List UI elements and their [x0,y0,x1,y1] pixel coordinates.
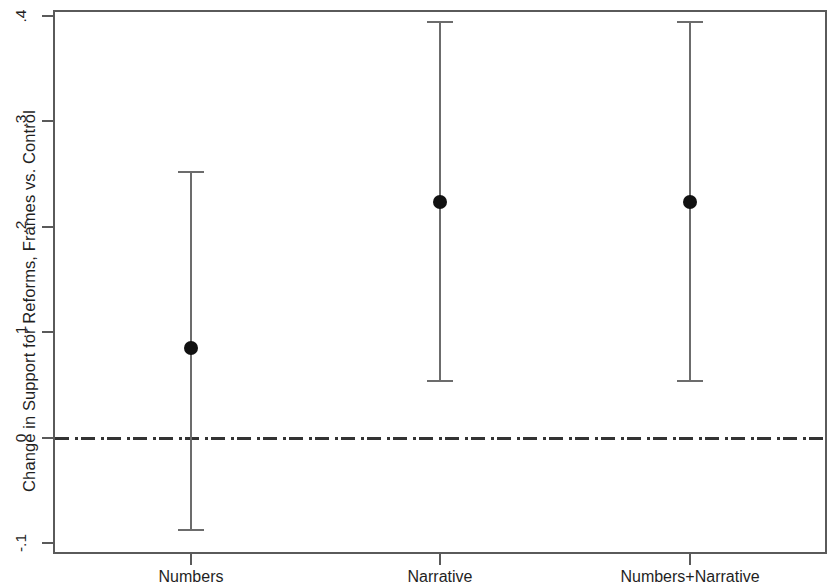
y-tick-mark [42,542,53,544]
y-tick-mark [42,226,53,228]
x-tick-mark [689,554,691,565]
error-bar-cap-upper [677,21,703,23]
zero-reference-line [55,437,825,440]
error-bar-cap-lower [677,380,703,382]
x-tick-label: Narrative [310,568,570,582]
y-tick-mark [42,331,53,333]
y-tick-label: .2 [7,210,35,244]
y-tick-label: .3 [7,104,35,138]
estimate-marker [683,195,697,209]
y-tick-label: .1 [7,315,35,349]
error-bar-cap-upper [427,21,453,23]
x-tick-label: Numbers [61,568,321,582]
x-tick-mark [439,554,441,565]
x-tick-mark [190,554,192,565]
estimate-marker [184,341,198,355]
x-tick-label: Numbers+Narrative [560,568,820,582]
coefficient-plot-figure: Change in Support for Reforms, Frames vs… [0,0,829,582]
error-bar-cap-lower [178,529,204,531]
y-tick-mark [42,15,53,17]
y-tick-label: .4 [7,0,35,33]
y-tick-mark [42,437,53,439]
y-tick-label: -.1 [7,526,35,560]
y-tick-label: 0 [7,421,35,455]
error-bar-cap-upper [178,171,204,173]
y-tick-mark [42,120,53,122]
estimate-marker [433,195,447,209]
error-bar-cap-lower [427,380,453,382]
